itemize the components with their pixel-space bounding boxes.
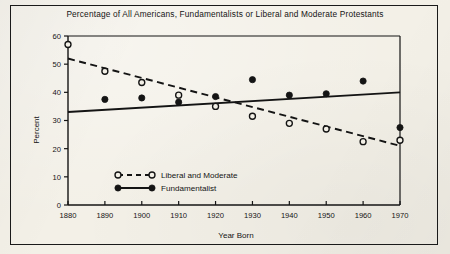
data-point-fundamentalist bbox=[102, 96, 108, 102]
chart-plot-area: 0102030405060188018901900191019201930194… bbox=[0, 0, 450, 254]
y-axis-label: Percent bbox=[32, 115, 41, 143]
x-axis-tick-label: 1960 bbox=[355, 211, 372, 220]
y-axis-tick-label: 60 bbox=[53, 32, 61, 41]
chart-page: Percentage of All Americans, Fundamental… bbox=[0, 0, 450, 254]
x-axis-tick-label: 1970 bbox=[392, 211, 409, 220]
chart-legend: Liberal and ModerateFundamentalist bbox=[115, 171, 238, 193]
data-point-fundamentalist bbox=[286, 92, 292, 98]
trendlines-group bbox=[68, 59, 400, 146]
x-axis-tick-label: 1930 bbox=[244, 211, 261, 220]
y-axis-tick-label: 50 bbox=[53, 60, 61, 69]
data-point-liberal-and-moderate bbox=[176, 92, 182, 98]
data-point-liberal-and-moderate bbox=[65, 41, 71, 47]
data-point-fundamentalist bbox=[139, 95, 145, 101]
data-point-liberal-and-moderate bbox=[397, 137, 403, 143]
y-axis-tick-label: 30 bbox=[53, 116, 61, 125]
x-axis-tick-label: 1890 bbox=[96, 211, 113, 220]
data-point-fundamentalist bbox=[249, 77, 255, 83]
data-markers-group bbox=[65, 41, 403, 144]
data-point-fundamentalist bbox=[176, 99, 182, 105]
legend-label-1: Liberal and Moderate bbox=[161, 171, 238, 180]
data-point-liberal-and-moderate bbox=[323, 126, 329, 132]
legend-marker-2 bbox=[149, 185, 155, 191]
legend-marker-2 bbox=[115, 185, 121, 191]
legend-marker-1 bbox=[115, 172, 121, 178]
data-point-liberal-and-moderate bbox=[213, 103, 219, 109]
data-point-liberal-and-moderate bbox=[139, 79, 145, 85]
data-point-liberal-and-moderate bbox=[360, 139, 366, 145]
data-point-liberal-and-moderate bbox=[102, 68, 108, 74]
data-point-fundamentalist bbox=[323, 91, 329, 97]
data-point-fundamentalist bbox=[397, 124, 403, 130]
y-axis-tick-label: 40 bbox=[53, 88, 61, 97]
x-axis-tick-label: 1880 bbox=[60, 211, 77, 220]
x-axis-tick-label: 1900 bbox=[133, 211, 150, 220]
x-axis-tick-label: 1950 bbox=[318, 211, 335, 220]
data-point-liberal-and-moderate bbox=[286, 120, 292, 126]
data-point-fundamentalist bbox=[360, 78, 366, 84]
y-axis-tick-label: 20 bbox=[53, 145, 61, 154]
x-axis-tick-label: 1910 bbox=[170, 211, 187, 220]
y-axis-tick-label: 10 bbox=[53, 173, 61, 182]
x-axis-tick-label: 1940 bbox=[281, 211, 298, 220]
x-axis-tick-label: 1920 bbox=[207, 211, 224, 220]
trendline-fundamentalist bbox=[68, 92, 400, 112]
legend-marker-1 bbox=[149, 172, 155, 178]
data-point-fundamentalist bbox=[212, 93, 218, 99]
y-axis-tick-label: 0 bbox=[57, 201, 61, 210]
legend-label-2: Fundamentalist bbox=[161, 184, 217, 193]
x-axis-label: Year Born bbox=[218, 231, 253, 240]
axes-group: 0102030405060188018901900191019201930194… bbox=[53, 32, 409, 220]
data-point-liberal-and-moderate bbox=[249, 113, 255, 119]
